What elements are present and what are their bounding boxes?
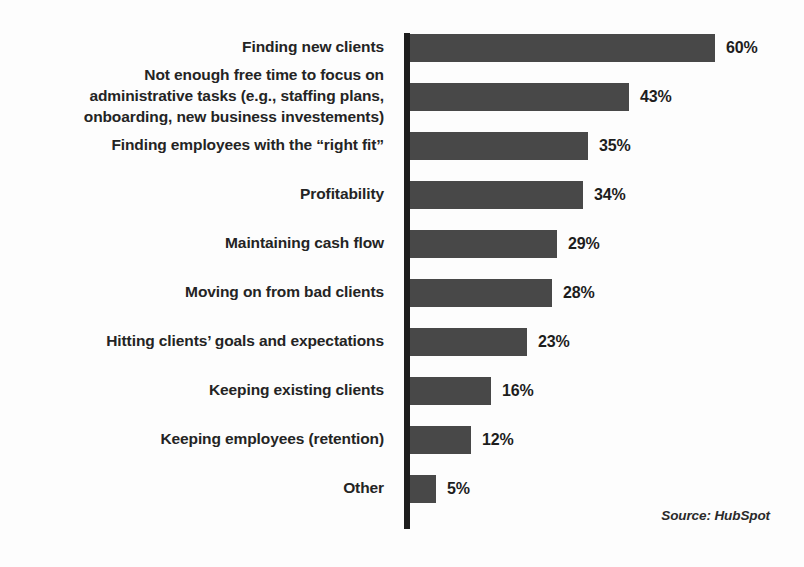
bar-row: Not enough free time to focus on adminis… <box>0 72 804 121</box>
bar-chart: Finding new clients 60% Not enough free … <box>0 0 804 567</box>
category-label: Keeping employees (retention) <box>8 415 396 464</box>
bar-row: Hitting clients’ goals and expectations … <box>0 317 804 366</box>
plot-area: Finding new clients 60% Not enough free … <box>0 0 804 567</box>
bar-fill[interactable] <box>410 328 527 356</box>
category-label: Profitability <box>8 170 396 219</box>
bar-fill[interactable] <box>410 34 715 62</box>
bar-fill[interactable] <box>410 475 436 503</box>
bar-track: 35% <box>410 121 630 170</box>
bar-track: 43% <box>410 72 671 121</box>
bar-value-label: 43% <box>640 88 671 106</box>
bar-row: Maintaining cash flow 29% <box>0 219 804 268</box>
bar-track: 34% <box>410 170 625 219</box>
bar-track: 5% <box>410 464 470 513</box>
bar-fill[interactable] <box>410 181 583 209</box>
bar-fill[interactable] <box>410 426 471 454</box>
bar-fill[interactable] <box>410 83 629 111</box>
bar-track: 23% <box>410 317 569 366</box>
bar-track: 28% <box>410 268 594 317</box>
bar-row: Keeping employees (retention) 12% <box>0 415 804 464</box>
category-label: Maintaining cash flow <box>8 219 396 268</box>
bar-row: Finding employees with the “right fit” 3… <box>0 121 804 170</box>
bar-row: Keeping existing clients 16% <box>0 366 804 415</box>
category-label: Finding employees with the “right fit” <box>8 121 396 170</box>
bar-value-label: 23% <box>538 333 569 351</box>
category-label: Moving on from bad clients <box>8 268 396 317</box>
bar-fill[interactable] <box>410 230 557 258</box>
bar-fill[interactable] <box>410 279 552 307</box>
bar-value-label: 60% <box>726 39 757 57</box>
source-note: Source: HubSpot <box>661 508 770 523</box>
bar-value-label: 28% <box>563 284 594 302</box>
category-label: Not enough free time to focus on adminis… <box>8 72 396 121</box>
bar-fill[interactable] <box>410 132 588 160</box>
bar-row: Moving on from bad clients 28% <box>0 268 804 317</box>
bar-value-label: 29% <box>568 235 599 253</box>
bar-track: 60% <box>410 23 757 72</box>
bar-value-label: 5% <box>447 480 470 498</box>
bar-track: 29% <box>410 219 599 268</box>
bar-value-label: 12% <box>482 431 513 449</box>
bar-row: Other 5% <box>0 464 804 513</box>
bar-track: 12% <box>410 415 513 464</box>
bar-value-label: 34% <box>594 186 625 204</box>
bar-row: Profitability 34% <box>0 170 804 219</box>
category-label: Keeping existing clients <box>8 366 396 415</box>
category-label: Hitting clients’ goals and expectations <box>8 317 396 366</box>
bar-track: 16% <box>410 366 533 415</box>
category-label: Other <box>8 464 396 513</box>
bar-fill[interactable] <box>410 377 491 405</box>
bar-value-label: 35% <box>599 137 630 155</box>
bar-value-label: 16% <box>502 382 533 400</box>
